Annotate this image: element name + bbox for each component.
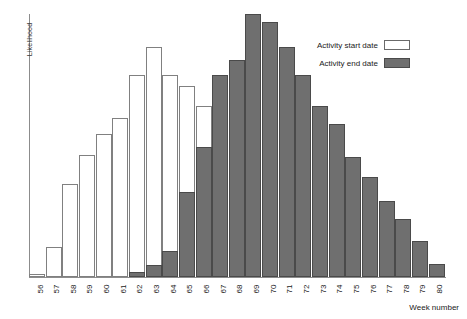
legend-label: Activity start date xyxy=(317,41,378,50)
x-tick-68: 68 xyxy=(229,281,245,297)
bar-chart: Likelihood Week number 56575859606162636… xyxy=(0,0,467,319)
x-tick-74: 74 xyxy=(329,281,345,297)
bar-start-week-60 xyxy=(96,134,112,277)
x-tick-65: 65 xyxy=(179,281,195,297)
bar-group-week-69 xyxy=(245,14,261,277)
x-tick-70: 70 xyxy=(262,281,278,297)
x-tick-69: 69 xyxy=(245,281,261,297)
x-tick-71: 71 xyxy=(279,281,295,297)
legend-item-activity-start-date: Activity start date xyxy=(317,38,410,52)
bar-group-week-79 xyxy=(412,14,428,277)
x-tick-61: 61 xyxy=(112,281,128,297)
bar-start-week-61 xyxy=(112,118,128,277)
bar-group-week-65 xyxy=(179,14,195,277)
bar-start-week-59 xyxy=(79,155,95,277)
bar-end-week-78 xyxy=(395,219,411,277)
x-tick-66: 66 xyxy=(196,281,212,297)
bar-group-week-64 xyxy=(162,14,178,277)
bar-start-week-57 xyxy=(46,247,62,277)
bar-group-week-71 xyxy=(279,14,295,277)
x-tick-62: 62 xyxy=(129,281,145,297)
bar-end-week-64 xyxy=(162,251,178,277)
x-tick-57: 57 xyxy=(46,281,62,297)
legend-swatch-start-icon xyxy=(384,40,410,50)
bar-group-week-66 xyxy=(196,14,212,277)
bar-start-week-58 xyxy=(62,184,78,277)
bar-end-week-62 xyxy=(129,272,145,277)
legend-swatch-end-icon xyxy=(384,58,410,68)
x-axis-title: Week number xyxy=(409,303,459,312)
x-tick-78: 78 xyxy=(395,281,411,297)
x-tick-77: 77 xyxy=(379,281,395,297)
bar-end-week-74 xyxy=(329,124,345,277)
bar-group-week-61 xyxy=(112,14,128,277)
x-tick-58: 58 xyxy=(62,281,78,297)
bar-end-week-69 xyxy=(245,14,261,277)
bar-start-week-63 xyxy=(146,47,162,277)
bar-end-week-79 xyxy=(412,241,428,277)
bar-group-week-56 xyxy=(29,14,45,277)
bar-end-week-65 xyxy=(179,192,195,277)
bar-group-week-67 xyxy=(212,14,228,277)
x-tick-80: 80 xyxy=(429,281,445,297)
x-tick-72: 72 xyxy=(295,281,311,297)
legend-item-activity-end-date: Activity end date xyxy=(317,56,410,70)
x-tick-73: 73 xyxy=(312,281,328,297)
bar-end-week-73 xyxy=(312,106,328,277)
x-tick-75: 75 xyxy=(345,281,361,297)
bar-start-week-56 xyxy=(29,274,45,277)
bar-end-week-76 xyxy=(362,177,378,277)
bar-end-week-67 xyxy=(212,75,228,277)
chart-legend: Activity start date Activity end date xyxy=(317,38,410,74)
x-axis-line xyxy=(29,277,446,278)
x-tick-76: 76 xyxy=(362,281,378,297)
bar-start-week-64 xyxy=(162,75,178,277)
bar-group-week-63 xyxy=(146,14,162,277)
bar-group-week-60 xyxy=(96,14,112,277)
bar-group-week-80 xyxy=(429,14,445,277)
x-tick-67: 67 xyxy=(212,281,228,297)
bar-end-week-80 xyxy=(429,264,445,277)
x-tick-59: 59 xyxy=(79,281,95,297)
bar-end-week-70 xyxy=(262,22,278,277)
x-tick-63: 63 xyxy=(146,281,162,297)
x-tick-64: 64 xyxy=(162,281,178,297)
bar-end-week-63 xyxy=(146,265,162,277)
bar-group-week-68 xyxy=(229,14,245,277)
x-tick-79: 79 xyxy=(412,281,428,297)
bar-start-week-62 xyxy=(129,75,145,277)
bar-group-week-62 xyxy=(129,14,145,277)
bar-end-week-77 xyxy=(379,201,395,277)
x-tick-60: 60 xyxy=(96,281,112,297)
bar-end-week-66 xyxy=(196,147,212,277)
bar-end-week-75 xyxy=(345,157,361,277)
legend-label: Activity end date xyxy=(319,59,378,68)
bar-end-week-71 xyxy=(279,47,295,277)
bar-group-week-58 xyxy=(62,14,78,277)
bar-end-week-68 xyxy=(229,60,245,277)
x-tick-56: 56 xyxy=(29,281,45,297)
bar-group-week-57 xyxy=(46,14,62,277)
bar-end-week-72 xyxy=(295,75,311,277)
bar-group-week-59 xyxy=(79,14,95,277)
bar-group-week-70 xyxy=(262,14,278,277)
bar-group-week-72 xyxy=(295,14,311,277)
